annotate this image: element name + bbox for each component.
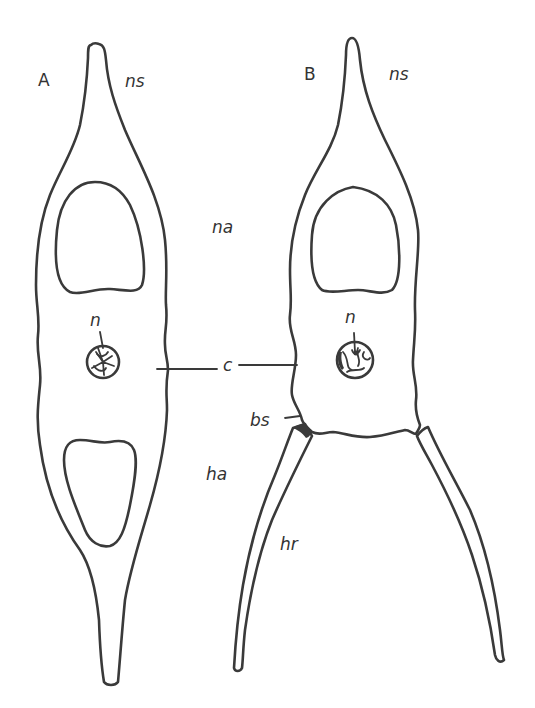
label-hr: hr (280, 536, 298, 553)
label-ns-b: ns (389, 66, 409, 83)
vertebra-a (36, 43, 168, 685)
haemal-canal-a (64, 440, 136, 546)
haemal-rib-left (234, 424, 312, 671)
notochord-b (337, 333, 373, 378)
label-n-a: n (90, 312, 101, 329)
label-c: c (223, 357, 232, 374)
neural-canal-b (311, 187, 399, 293)
panel-label-a: A (38, 72, 50, 89)
vertebrae-diagram (0, 0, 535, 708)
notochord-a (87, 332, 119, 378)
panel-label-b: B (304, 66, 316, 83)
label-n-b: n (345, 309, 356, 326)
label-ha: ha (206, 466, 227, 483)
neural-canal-a (56, 182, 144, 293)
vertebra-b (234, 38, 504, 671)
label-na: na (212, 219, 233, 236)
haemal-rib-right (417, 427, 504, 662)
bs-leader (285, 416, 300, 418)
label-ns-a: ns (125, 73, 145, 90)
label-bs: bs (250, 412, 270, 429)
